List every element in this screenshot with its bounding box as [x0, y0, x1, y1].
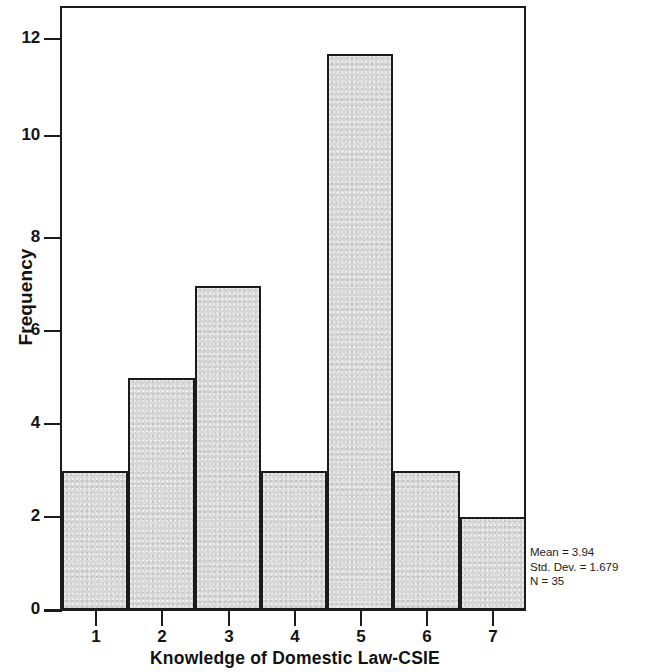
histogram-bar-2 — [128, 378, 194, 610]
y-tick-label-2: 2 — [0, 507, 40, 524]
y-tick-mark-10 — [44, 135, 60, 137]
x-axis-title: Knowledge of Domestic Law-CSIE — [60, 648, 530, 669]
x-tick-mark-7 — [492, 611, 494, 626]
x-tick-label-3: 3 — [214, 628, 244, 645]
stat-mean: Mean = 3.94 — [530, 545, 618, 560]
y-tick-mark-12 — [44, 38, 60, 40]
y-tick-label-0: 0 — [0, 600, 40, 617]
x-tick-label-4: 4 — [280, 628, 310, 645]
x-tick-label-7: 7 — [478, 628, 508, 645]
y-tick-mark-2 — [44, 516, 60, 518]
x-tick-mark-1 — [95, 611, 97, 626]
y-tick-label-8: 8 — [0, 228, 40, 245]
y-tick-mark-8 — [44, 237, 60, 239]
y-tick-label-10: 10 — [0, 126, 40, 143]
x-tick-mark-6 — [426, 611, 428, 626]
histogram-bar-1 — [62, 471, 128, 610]
x-tick-mark-4 — [294, 611, 296, 626]
x-axis-baseline — [44, 609, 62, 612]
y-tick-mark-6 — [44, 330, 60, 332]
x-tick-label-2: 2 — [147, 628, 177, 645]
plot-area — [62, 8, 526, 610]
y-tick-label-12: 12 — [0, 29, 40, 46]
y-tick-mark-4 — [44, 423, 60, 425]
y-axis-title: Frequency — [15, 237, 37, 357]
x-tick-label-6: 6 — [412, 628, 442, 645]
y-tick-label-4: 4 — [0, 414, 40, 431]
histogram-bar-3 — [195, 286, 261, 610]
stat-n: N = 35 — [530, 574, 618, 589]
histogram-bar-4 — [261, 471, 327, 610]
histogram-bar-5 — [327, 54, 393, 610]
histogram-bar-7 — [460, 517, 526, 610]
x-tick-mark-3 — [228, 611, 230, 626]
x-tick-label-1: 1 — [81, 628, 111, 645]
x-tick-mark-2 — [161, 611, 163, 626]
histogram-bar-6 — [393, 471, 459, 610]
histogram-figure: Frequency 0 2 4 6 8 10 12 1 2 3 4 5 6 7 … — [0, 0, 650, 672]
statistics-annotation: Mean = 3.94 Std. Dev. = 1.679 N = 35 — [530, 545, 618, 589]
stat-std-dev: Std. Dev. = 1.679 — [530, 560, 618, 575]
y-tick-label-6: 6 — [0, 321, 40, 338]
x-tick-mark-5 — [360, 611, 362, 626]
x-tick-label-5: 5 — [346, 628, 376, 645]
